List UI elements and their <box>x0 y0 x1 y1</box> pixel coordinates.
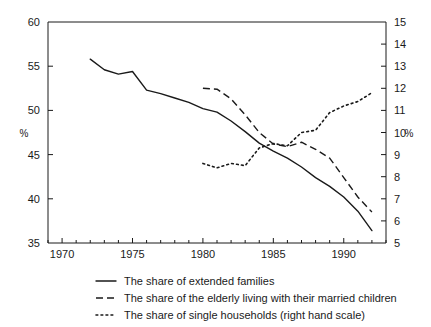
legend-label: The share of the elderly living with the… <box>124 292 397 304</box>
y2-axis-tick-label: 6 <box>394 215 400 227</box>
legend-item: The share of single households (right ha… <box>96 309 365 321</box>
series-line-1 <box>90 59 372 230</box>
legend-item: The share of extended families <box>96 275 275 287</box>
y2-axis-tick-label: 5 <box>394 237 400 249</box>
y2-axis-tick-label: 12 <box>394 82 406 94</box>
x-axis-tick-label: 1990 <box>332 248 356 260</box>
y-axis-title: % <box>20 128 29 139</box>
y2-axis-tick-label: 14 <box>394 38 406 50</box>
y-axis-tick-label: 35 <box>28 237 40 249</box>
x-axis-tick-label: 1970 <box>50 248 74 260</box>
y2-axis-title: % <box>405 128 414 139</box>
legend-item: The share of the elderly living with the… <box>96 292 397 304</box>
chart-page: 1970197519801985199035404550556056789101… <box>0 0 431 327</box>
y2-axis-tick-label: 9 <box>394 149 400 161</box>
y2-axis-tick-label: 15 <box>394 16 406 28</box>
legend-label: The share of single households (right ha… <box>124 309 365 321</box>
series-line-3 <box>203 93 372 168</box>
x-axis-tick-label: 1985 <box>261 248 285 260</box>
series-lines <box>90 59 372 230</box>
y2-axis-tick-label: 7 <box>394 193 400 205</box>
y-axis-tick-label: 60 <box>28 16 40 28</box>
y2-axis-tick-label: 11 <box>394 104 405 116</box>
y2-axis-tick-label: 13 <box>394 60 406 72</box>
y-axis-tick-label: 55 <box>28 60 40 72</box>
axes: 1970197519801985199035404550556056789101… <box>20 16 414 260</box>
y-axis-tick-label: 40 <box>28 193 40 205</box>
legend: The share of extended familiesThe share … <box>96 275 397 321</box>
legend-label: The share of extended families <box>124 275 275 287</box>
y2-axis-tick-label: 8 <box>394 171 400 183</box>
y-axis-tick-label: 45 <box>28 149 40 161</box>
plot-frame <box>48 22 386 243</box>
line-chart: 1970197519801985199035404550556056789101… <box>0 0 431 327</box>
x-axis-tick-label: 1980 <box>191 248 215 260</box>
series-line-2 <box>203 88 372 212</box>
x-axis-tick-label: 1975 <box>120 248 144 260</box>
y-axis-tick-label: 50 <box>28 104 40 116</box>
